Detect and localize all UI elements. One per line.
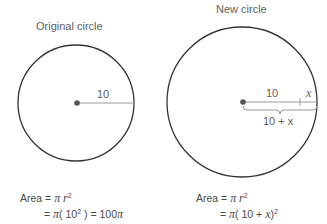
new-center-dot: [240, 99, 246, 105]
new-area-line1: Area = π r2: [196, 189, 278, 205]
new-area-equation: Area = π r2 = π( 10 + x)2: [196, 189, 278, 221]
radius-brace: [243, 106, 317, 114]
original-area-line2: = π( 102 ) = 100π: [20, 205, 123, 221]
original-radius-label: 10: [97, 88, 109, 100]
new-area-line2: = π( 10 + x)2: [196, 205, 278, 221]
new-segment-label-10: 10: [266, 87, 278, 99]
brace-label-text: 10 + x: [263, 115, 293, 127]
original-center-dot: [74, 100, 80, 106]
new-segment-label-x: x: [306, 86, 311, 101]
x-variable: x: [306, 86, 311, 100]
new-brace-label: 10 + x: [263, 115, 293, 127]
original-area-equation: Area = π r2 = π( 102 ) = 100π: [20, 189, 123, 221]
original-area-line1: Area = π r2: [20, 189, 123, 205]
